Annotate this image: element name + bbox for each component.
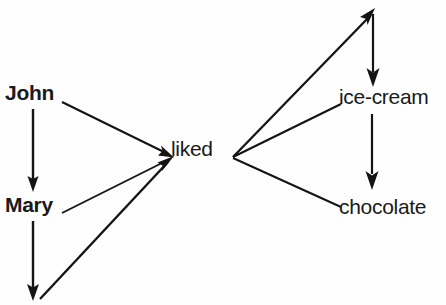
edge-top-anchor-to-ice-cream	[367, 14, 380, 87]
edge-mary-down	[27, 221, 39, 301]
edge-bottom-anchor-to-liked	[40, 156, 174, 299]
diagram-edges-layer	[0, 0, 446, 305]
node-label-liked: liked	[171, 138, 213, 159]
node-label-ice-cream: ice-cream	[339, 86, 428, 107]
edge-mary-to-liked	[62, 160, 168, 213]
node-label-chocolate: chocolate	[339, 196, 426, 217]
edge-liked-to-ice-cream	[233, 104, 341, 157]
node-label-mary: Mary	[5, 194, 53, 215]
edge-john-to-mary	[28, 109, 39, 192]
edge-liked-to-top-anchor	[233, 8, 375, 157]
edge-ice-cream-to-chocolate	[366, 114, 379, 190]
edge-john-to-liked	[62, 102, 174, 158]
node-label-john: John	[5, 82, 54, 103]
edge-liked-to-chocolate	[233, 158, 341, 207]
diagram-canvas: John Mary liked ice-cream chocolate	[0, 0, 446, 305]
